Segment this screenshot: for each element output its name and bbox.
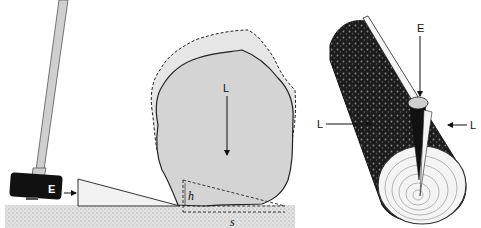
hammer-head: E	[9, 172, 63, 200]
rock	[156, 50, 293, 206]
height-label: h	[188, 189, 194, 203]
wedge-diagram: E L h s	[0, 0, 481, 228]
log-load-right-label: L	[470, 119, 476, 131]
panel-wedge-splitting-log: E L L	[317, 16, 476, 224]
log-load-left-label: L	[317, 118, 323, 130]
hammer-handle	[36, 0, 68, 170]
log-wedge-top	[408, 97, 428, 109]
effort-label: E	[48, 183, 55, 195]
wedge	[78, 179, 180, 206]
ground	[5, 205, 295, 228]
distance-label: s	[230, 215, 235, 228]
panel-wedge-lifting-rock: E L h s	[5, 0, 296, 228]
load-label: L	[223, 82, 229, 94]
log-effort-label: E	[417, 22, 424, 34]
